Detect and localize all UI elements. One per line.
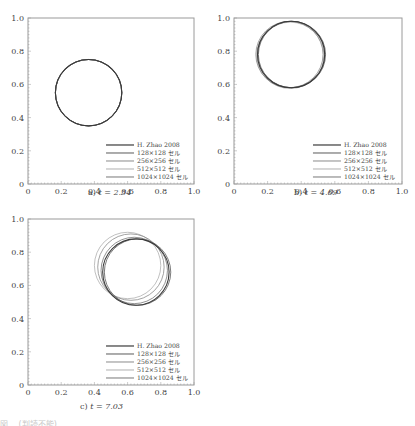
legend-label: 128×128 セル	[137, 149, 180, 156]
chart-b: 00.20.40.60.81.000.20.40.60.81.0H. Zhao …	[206, 0, 415, 200]
y-tick-label: 0.6	[217, 80, 230, 89]
y-tick-label: 1.0	[11, 14, 24, 23]
legend-label: 128×128 セル	[137, 350, 180, 357]
y-tick-label: 0.6	[11, 80, 24, 89]
x-tick-label: 0.8	[362, 187, 375, 196]
y-tick-label: 1.0	[217, 14, 230, 23]
legend-label: H. Zhao 2008	[344, 141, 387, 148]
chart-c: 00.20.40.60.81.000.20.40.60.81.0H. Zhao …	[0, 200, 205, 400]
x-tick-label: 1.0	[188, 388, 201, 397]
y-tick-label: 0.8	[217, 47, 230, 56]
y-tick-label: 0.4	[11, 114, 24, 123]
panel-c-label: c)	[80, 402, 88, 411]
panel-b: 00.20.40.60.81.000.20.40.60.81.0H. Zhao …	[206, 0, 415, 200]
x-tick-label: 0.6	[121, 388, 134, 397]
x-tick-label: 0	[231, 187, 236, 196]
legend-label: 1024×1024 セル	[137, 173, 188, 180]
y-tick-label: 0.2	[217, 147, 230, 156]
x-tick-label: 0	[25, 388, 30, 397]
legend-label: 1024×1024 セル	[137, 374, 188, 381]
panel-a-caption: a) t = 2.34	[88, 188, 131, 197]
x-tick-label: 0.2	[55, 187, 68, 196]
x-tick-label: 1.0	[396, 187, 409, 196]
y-tick-label: 0.4	[217, 114, 230, 123]
panel-c-time: t = 7.03	[90, 402, 123, 411]
legend-label: 128×128 セル	[344, 149, 387, 156]
interface-curve	[104, 239, 170, 305]
panel-c: 00.20.40.60.81.000.20.40.60.81.0H. Zhao …	[0, 200, 205, 400]
legend-label: H. Zhao 2008	[137, 141, 180, 148]
figure-caption: 図 …(判読不能)…	[0, 418, 415, 426]
x-tick-label: 0.2	[261, 187, 274, 196]
y-tick-label: 0.8	[11, 47, 24, 56]
x-tick-label: 0.2	[55, 388, 68, 397]
y-tick-label: 0	[19, 381, 24, 390]
legend-label: H. Zhao 2008	[137, 342, 180, 349]
y-tick-label: 1.0	[11, 215, 24, 224]
y-tick-label: 0.2	[11, 147, 24, 156]
interface-curve	[256, 21, 323, 87]
legend-label: 1024×1024 セル	[344, 173, 395, 180]
y-tick-label: 0.8	[11, 248, 24, 257]
y-tick-label: 0.6	[11, 281, 24, 290]
panel-b-label: b)	[294, 188, 302, 197]
panel-b-caption: b) t = 4.69	[294, 188, 338, 197]
y-tick-label: 0.4	[11, 315, 24, 324]
legend-label: 256×256 セル	[137, 358, 180, 365]
legend-label: 256×256 セル	[344, 157, 387, 164]
x-tick-label: 0.4	[88, 388, 101, 397]
x-tick-label: 0	[25, 187, 30, 196]
panel-a-time: t = 2.34	[98, 188, 131, 197]
panel-a-label: a)	[88, 188, 96, 197]
panel-a: 00.20.40.60.81.000.20.40.60.81.0H. Zhao …	[0, 0, 205, 200]
y-tick-label: 0	[19, 180, 24, 189]
x-tick-label: 1.0	[188, 187, 201, 196]
y-tick-label: 0	[225, 180, 230, 189]
legend-label: 512×512 セル	[137, 366, 180, 373]
x-tick-label: 0.8	[154, 388, 167, 397]
legend-label: 256×256 セル	[137, 157, 180, 164]
legend-label: 512×512 セル	[137, 165, 180, 172]
chart-a: 00.20.40.60.81.000.20.40.60.81.0H. Zhao …	[0, 0, 205, 200]
interface-curve	[55, 59, 121, 125]
y-tick-label: 0.2	[11, 348, 24, 357]
interface-curve	[258, 21, 325, 87]
panel-b-time: t = 4.69	[305, 188, 338, 197]
legend-label: 512×512 セル	[344, 165, 387, 172]
panel-c-caption: c) t = 7.03	[80, 402, 123, 411]
interface-curve	[103, 239, 169, 305]
x-tick-label: 0.8	[154, 187, 167, 196]
